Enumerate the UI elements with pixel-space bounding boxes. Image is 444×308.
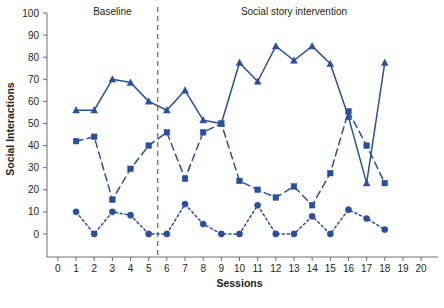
y-tick-label: 80 [28,52,40,63]
data-point-square [219,121,225,127]
data-point-square [200,130,206,136]
x-tick-label: 12 [270,263,282,274]
series-participant-3 [73,201,388,237]
data-point-square [364,143,370,149]
series-participant-1 [73,43,389,186]
data-point-square [73,138,79,144]
y-axis: 0102030405060708090100Social Interaction… [4,8,47,257]
data-point-square [146,143,152,149]
data-point-square [91,134,97,140]
data-point-triangle [381,59,388,65]
y-tick-label: 50 [28,118,40,129]
x-tick-label: 18 [379,263,391,274]
data-point-circle [236,231,242,237]
series-line-participant-3 [76,204,385,234]
x-tick-label: 19 [397,263,409,274]
data-point-circle [327,231,333,237]
data-point-circle [73,209,79,215]
x-tick-label: 17 [361,263,373,274]
phase-label-1: Social story intervention [241,6,347,17]
series-line-participant-2 [76,111,385,205]
x-tick-label: 15 [325,263,337,274]
data-point-square [255,187,261,193]
data-point-square [328,170,334,176]
data-point-square [128,166,134,172]
data-point-triangle [109,76,116,82]
x-tick-label: 8 [200,263,206,274]
y-tick-label: 0 [33,229,39,240]
data-point-circle [146,231,152,237]
data-point-triangle [309,43,316,49]
x-tick-label: 13 [288,263,300,274]
data-point-triangle [182,87,189,93]
x-tick-label: 1 [73,263,79,274]
data-point-circle [127,212,133,218]
data-point-square [382,180,388,186]
data-point-circle [200,221,206,227]
x-axis: 01234567891011121314151617181920Sessions [47,257,438,289]
data-point-triangle [363,180,370,186]
y-tick-label: 60 [28,96,40,107]
data-point-circle [382,226,388,232]
series-participant-2 [73,109,387,209]
data-point-circle [218,231,224,237]
data-point-circle [109,209,115,215]
data-point-square [110,197,116,203]
y-tick-label: 40 [28,140,40,151]
x-tick-label: 6 [164,263,170,274]
y-tick-label: 10 [28,206,40,217]
x-tick-label: 11 [252,263,263,274]
y-tick-label: 100 [22,8,39,19]
x-tick-label: 10 [234,263,246,274]
x-tick-label: 5 [146,263,152,274]
data-point-circle [291,231,297,237]
data-point-circle [309,213,315,219]
data-point-square [273,195,279,201]
y-tick-label: 20 [28,184,40,195]
y-axis-title: Social Interactions [4,82,16,176]
data-point-square [164,130,170,136]
data-point-circle [164,231,170,237]
x-tick-label: 7 [182,263,188,274]
y-tick-label: 70 [28,74,40,85]
series-line-participant-1 [76,46,385,183]
data-point-circle [255,202,261,208]
x-tick-label: 16 [343,263,355,274]
data-point-circle [273,231,279,237]
data-point-square [182,176,188,182]
data-point-square [237,178,243,184]
x-tick-label: 20 [416,263,428,274]
chart-canvas: 0102030405060708090100Social Interaction… [0,0,444,308]
phase-label-0: Baseline [93,6,132,17]
data-point-square [309,202,315,208]
data-point-circle [345,207,351,213]
x-axis-title: Sessions [216,277,262,289]
x-tick-label: 14 [307,263,319,274]
data-point-circle [91,231,97,237]
x-tick-label: 9 [219,263,225,274]
data-point-circle [182,201,188,207]
data-point-square [346,109,352,115]
data-point-circle [364,215,370,221]
y-tick-label: 30 [28,162,40,173]
data-point-triangle [272,43,279,49]
y-tick-label: 90 [28,30,40,41]
x-tick-label: 3 [110,263,116,274]
x-tick-label: 4 [128,263,134,274]
data-point-triangle [236,59,243,65]
x-tick-label: 0 [55,263,61,274]
social-interactions-chart: 0102030405060708090100Social Interaction… [0,0,444,308]
data-point-square [291,184,297,190]
x-tick-label: 2 [91,263,97,274]
